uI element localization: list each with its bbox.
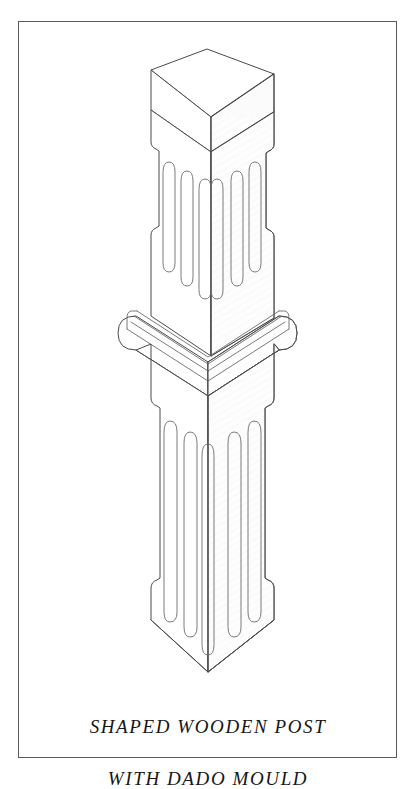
lower-shaft-right-tone [208, 344, 279, 672]
caption-line-2: WITH DADO MOULD [28, 766, 388, 789]
caption-line-1: SHAPED WOODEN POST [28, 714, 388, 740]
upper-shaft-right-tone [211, 112, 274, 356]
plate-caption: SHAPED WOODEN POST WITH DADO MOULD [28, 688, 388, 789]
